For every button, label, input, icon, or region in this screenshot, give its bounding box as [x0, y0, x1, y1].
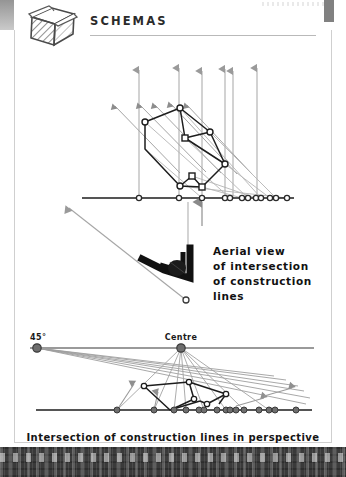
callout-line-1: Aerial view — [213, 244, 335, 259]
scan-noise — [0, 447, 346, 477]
angle-end-node — [183, 297, 189, 303]
callout-line-3: of construction — [213, 274, 335, 289]
label-45-degrees: 45° — [30, 333, 46, 342]
callout-aerial-view: Aerial view of intersection of construct… — [213, 244, 335, 304]
vanishing-point-45 — [33, 344, 41, 352]
cube-icon — [22, 5, 80, 49]
angle-leader-line — [69, 208, 186, 300]
angle-bracket-marker — [142, 248, 190, 278]
diagram-perspective-construction: 45° Centre — [14, 318, 332, 428]
page-title: SCHEMAS — [90, 16, 322, 28]
scan-highlight — [0, 453, 346, 462]
scan-artifact-bottom — [0, 447, 346, 477]
rays-from-45-point — [37, 348, 310, 404]
title-underline — [90, 35, 316, 37]
callout-line-2: of intersection — [213, 259, 335, 274]
projection-rays-to-baseline — [145, 108, 287, 198]
page-header: SCHEMAS — [14, 2, 332, 48]
label-centre: Centre — [165, 333, 198, 342]
title-wrap: SCHEMAS — [90, 16, 322, 36]
vanishing-point-centre — [177, 344, 185, 352]
figure-caption: Intersection of construction lines in pe… — [14, 432, 332, 443]
callout-line-4: lines — [213, 289, 335, 304]
building-footprint-polygon — [145, 108, 225, 187]
page-root: SCHEMAS — [0, 0, 346, 477]
scan-corner-left — [0, 0, 14, 30]
